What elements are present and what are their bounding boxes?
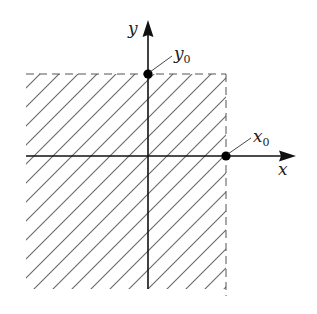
point-label-y0: y0 xyxy=(173,43,191,66)
leader-line-x0 xyxy=(228,138,251,154)
x-axis-label: x xyxy=(278,159,288,179)
point-label-x0: x0 xyxy=(253,126,270,149)
leader-line-y0 xyxy=(150,56,172,72)
y-axis-arrow-icon xyxy=(143,20,154,37)
hatched-region xyxy=(26,74,226,289)
y-axis-label: y xyxy=(127,18,138,38)
quadrant-region-diagram: x y y0 x0 xyxy=(0,0,317,314)
